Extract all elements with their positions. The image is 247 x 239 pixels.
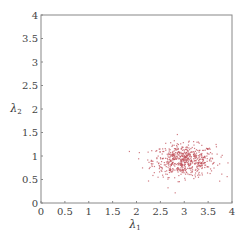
data-point [193,178,194,179]
x-tick-label: 1.5 [105,206,121,217]
data-point [174,170,175,171]
data-point [147,159,148,160]
data-point [186,171,187,172]
data-point [193,141,194,142]
data-point [183,142,184,143]
data-point [169,170,170,171]
data-point [170,166,171,167]
y-axis-ticks: 00.511.522.533.54 [22,10,43,209]
data-point [207,166,208,167]
data-point [201,173,202,174]
data-point [184,155,185,156]
data-point [219,181,220,182]
data-point [159,168,160,169]
data-point [181,163,182,164]
data-point [174,148,175,149]
data-point [200,154,201,155]
data-point [217,154,218,155]
data-point [182,156,183,157]
data-point [182,172,183,173]
data-point [182,159,183,160]
data-point [158,155,159,156]
y-axis-label: λ2 [9,102,21,116]
data-point [182,146,183,147]
data-point [189,174,190,175]
data-point [163,158,164,159]
data-point [192,167,193,168]
data-point [167,155,168,156]
data-point [184,150,185,151]
data-point [200,165,201,166]
y-tick-label: 0 [32,198,38,209]
data-point [178,164,179,165]
data-point [148,180,149,181]
data-point [192,175,193,176]
data-point [190,158,191,159]
data-point [199,156,200,157]
data-point [211,161,212,162]
data-point [166,161,167,162]
data-point [156,157,157,158]
data-point [169,148,170,149]
data-point [152,163,153,164]
data-point [160,164,161,165]
data-point [167,158,168,159]
data-point [227,176,228,177]
data-point [190,152,191,153]
data-point [167,154,168,155]
data-point [178,154,179,155]
data-point [162,148,163,149]
data-point [184,178,185,179]
data-point [179,152,180,153]
data-point [186,169,187,170]
data-point [192,169,193,170]
data-point [178,148,179,149]
data-point [197,170,198,171]
data-point [174,156,175,157]
data-point [193,156,194,157]
data-point [197,175,198,176]
x-tick-label: 1 [86,206,92,217]
data-point [182,150,183,151]
data-point [212,153,213,154]
y-tick-label: 2.5 [22,80,38,91]
data-point [160,158,161,159]
data-point [207,149,208,150]
data-point [191,152,192,153]
x-tick-label: 2.5 [152,206,168,217]
data-point [187,162,188,163]
data-point [202,150,203,151]
data-point [170,169,171,170]
data-point [139,152,140,153]
y-tick-label: 3 [32,57,38,68]
data-point [161,167,162,168]
data-point [167,167,168,168]
data-point [190,170,191,171]
data-point [186,161,187,162]
data-point [213,167,214,168]
data-point [187,173,188,174]
data-point [174,159,175,160]
data-point [151,150,152,151]
data-point [180,171,181,172]
data-point [152,175,153,176]
data-point [170,152,171,153]
data-point [172,151,173,152]
data-point [173,162,174,163]
data-point [167,174,168,175]
data-point [170,168,171,169]
y-tick-label: 1.5 [22,127,38,138]
data-point [181,170,182,171]
data-point [194,152,195,153]
data-point [192,162,193,163]
data-point [171,146,172,147]
data-point [196,142,197,143]
data-point [180,164,181,165]
x-tick-label: 3.5 [200,206,216,217]
data-point [189,149,190,150]
data-point [182,167,183,168]
data-point [162,153,163,154]
data-point [210,152,211,153]
data-point [172,159,173,160]
data-point [174,177,175,178]
